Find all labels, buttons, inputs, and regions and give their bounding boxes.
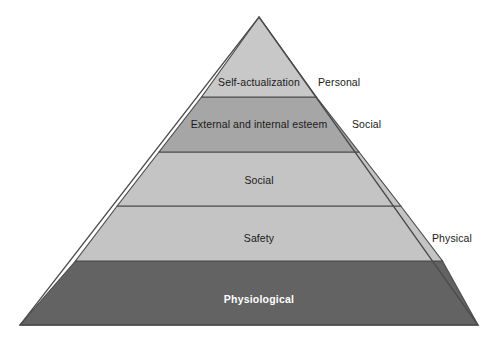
side-label-personal: Personal: [318, 76, 360, 88]
pyramid-tier-4-shape[interactable]: [76, 206, 443, 261]
pyramid-tier-1-shape[interactable]: [202, 17, 317, 97]
pyramid-graphic: [0, 0, 499, 345]
pyramid-diagram-canvas: Self-actualization External and internal…: [0, 0, 499, 345]
side-label-social: Social: [352, 118, 381, 130]
pyramid-tier-5-shape[interactable]: [20, 261, 478, 325]
pyramid-tier-2-shape[interactable]: [159, 97, 359, 152]
side-label-physical: Physical: [432, 232, 472, 244]
pyramid-tier-3-shape[interactable]: [117, 152, 401, 206]
